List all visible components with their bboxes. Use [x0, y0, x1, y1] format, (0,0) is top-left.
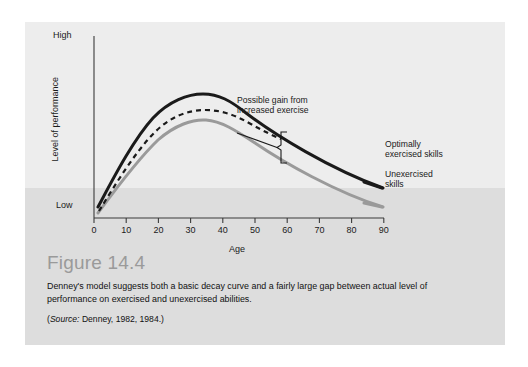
x-tick-label-80: 80 — [340, 225, 364, 235]
y-axis-title: Level of performance — [50, 64, 61, 174]
legend-item-optimally-exercised-skills: Optimallyexercised skills — [385, 139, 443, 159]
x-tick-label-40: 40 — [211, 225, 235, 235]
x-tick-label-50: 50 — [243, 225, 267, 235]
source-citation: Denney, 1982, 1984.) — [80, 314, 164, 324]
annotation-possible-gain-line2: increased exercise — [237, 105, 309, 115]
performance-decay-line-chart — [25, 22, 505, 247]
legend-item-unexercised-skills-line1: Unexercised — [385, 169, 433, 179]
legend-item-unexercised-skills: Unexercisedskills — [385, 169, 433, 189]
x-tick-label-70: 70 — [307, 225, 331, 235]
x-tick-label-0: 0 — [82, 225, 106, 235]
x-axis-title: Age — [207, 244, 267, 255]
legend-item-unexercised-skills-line2: skills — [385, 179, 404, 189]
annotation-possible-gain: Possible gain fromincreased exercise — [237, 95, 309, 115]
figure-source-line: (Source: Denney, 1982, 1984.) — [47, 314, 467, 324]
x-axis-ticks — [94, 218, 384, 223]
x-tick-label-10: 10 — [114, 225, 138, 235]
x-tick-label-60: 60 — [275, 225, 299, 235]
figure-caption-text: Denney's model suggests both a basic dec… — [47, 280, 467, 307]
figure-number-heading: Figure 14.4 — [47, 252, 145, 274]
source-word: Source: — [50, 314, 80, 324]
y-axis-label-low: Low — [56, 200, 73, 211]
legend-leader-unexercised — [364, 203, 382, 207]
y-axis-label-high: High — [53, 30, 72, 41]
figure-container: High Low Level of performance Age 0 10 2… — [25, 22, 505, 345]
x-tick-label-90: 90 — [372, 225, 396, 235]
legend-item-optimally-exercised-skills-line1: Optimally — [385, 139, 421, 149]
series-average-performance-dashed-line — [99, 110, 281, 211]
legend-item-optimally-exercised-skills-line2: exercised skills — [385, 149, 443, 159]
annotation-possible-gain-line1: Possible gain from — [237, 95, 308, 105]
x-tick-label-30: 30 — [179, 225, 203, 235]
x-tick-label-20: 20 — [146, 225, 170, 235]
